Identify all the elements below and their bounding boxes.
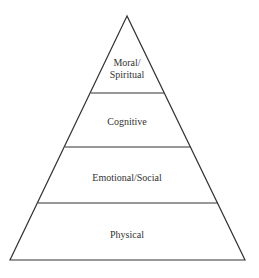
level-label-line2: Spiritual (97, 69, 157, 81)
level-cognitive: Cognitive (77, 116, 177, 128)
level-label-line1: Moral/ (97, 57, 157, 69)
level-moral-spiritual: Moral/ Spiritual (97, 57, 157, 81)
pyramid-outline (10, 16, 245, 260)
level-emotional-social: Emotional/Social (57, 172, 197, 184)
level-physical: Physical (57, 229, 197, 241)
